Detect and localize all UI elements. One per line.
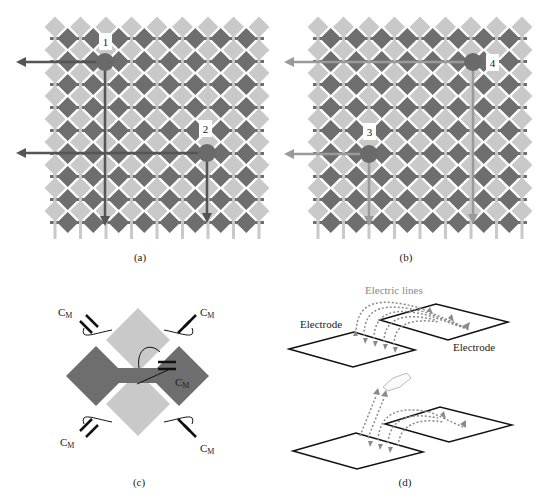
arrow-left-icon	[16, 57, 26, 67]
touch-point-2	[198, 144, 216, 162]
electrode-plate	[380, 304, 508, 340]
touch-point-1	[96, 53, 114, 71]
cm-label: CM	[200, 442, 214, 456]
figure-canvas: 1 2 4 3	[0, 0, 540, 502]
field-arrowheads	[368, 388, 466, 453]
point-label-1: 1	[103, 36, 109, 48]
finger-icon	[383, 373, 411, 391]
caption-c: (c)	[119, 476, 159, 488]
point-label-3: 3	[367, 126, 373, 138]
point-label-4: 4	[490, 57, 496, 69]
caption-a: (a)	[120, 251, 160, 263]
electrode-plate	[385, 407, 512, 442]
electrode-plate	[293, 433, 423, 469]
electrode-label-right: Electrode	[453, 341, 495, 353]
touch-point-3	[360, 145, 378, 163]
touch-point-4	[464, 53, 482, 71]
panel-d-electric-field: Electric lines Electrode Electrode	[289, 284, 512, 469]
cm-label: CM	[200, 306, 214, 320]
arrow-left-icon	[284, 57, 294, 67]
caption-d: (d)	[385, 476, 425, 488]
point-label-2: 2	[203, 123, 209, 135]
electrode-grid-a	[45, 17, 270, 240]
caption-b: (b)	[386, 251, 426, 263]
cm-label: CM	[58, 306, 72, 320]
electrode-label-left: Electrode	[300, 318, 342, 330]
arrow-left-icon	[16, 148, 26, 158]
electrode-grid-b	[308, 17, 533, 240]
panel-c-unit-cell: CM CM CM CM CM	[58, 306, 214, 456]
arrow-left-icon	[284, 149, 294, 159]
electric-lines-label: Electric lines	[365, 284, 423, 296]
cm-label: CM	[60, 436, 74, 450]
